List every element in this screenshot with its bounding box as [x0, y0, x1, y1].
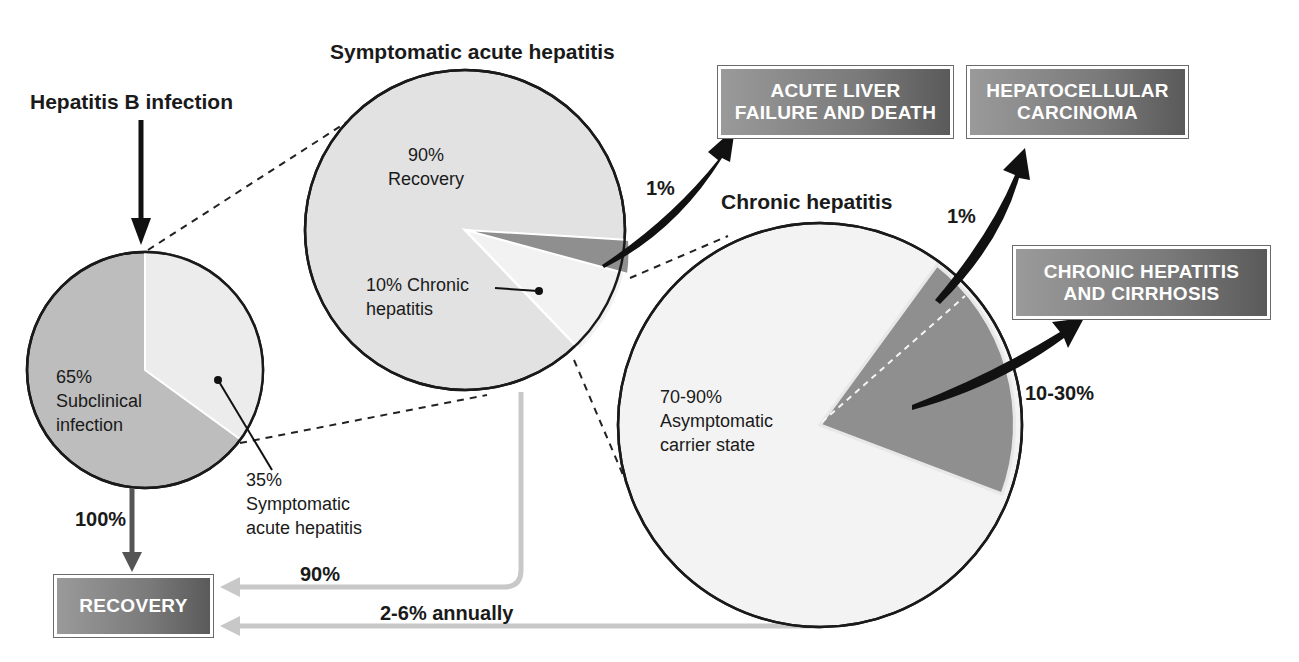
pie-symptomatic [305, 70, 629, 390]
slice-chronic: 10% Chronic hepatitis [366, 273, 469, 321]
flow-cirrhosis-pct: 10-30% [1025, 382, 1094, 405]
slice-carrier: 70-90% Asymptomatic carrier state [660, 385, 773, 457]
slice-symptomatic-label2: acute hepatitis [246, 516, 362, 540]
outcome-hcc-line2: CARCINOMA [986, 102, 1169, 124]
outcome-recovery-box: RECOVERY [53, 574, 214, 638]
outcome-cirrhosis-label: CHRONIC HEPATITIS AND CIRRHOSIS [1016, 249, 1267, 316]
flow-100-pct: 100% [75, 508, 126, 531]
slice-symptomatic-label: Symptomatic [246, 492, 362, 516]
slice-subclinical-label2: infection [56, 413, 142, 437]
slice-recovery: 90% Recovery [388, 143, 464, 191]
flow-90-pct: 90% [300, 563, 340, 586]
arrow-head-90 [220, 577, 240, 597]
outcome-liver-failure-line2: FAILURE AND DEATH [735, 102, 936, 124]
outcome-liver-failure-box: ACUTE LIVER FAILURE AND DEATH [717, 65, 954, 139]
slice-symptomatic-pct: 35% [246, 468, 362, 492]
slice-carrier-pct: 70-90% [660, 385, 773, 409]
outcome-hcc-label: HEPATOCELLULAR CARCINOMA [970, 69, 1185, 135]
arrow-head-annual [220, 616, 240, 636]
title-chronic-hepatitis: Chronic hepatitis [721, 190, 893, 214]
arrow-infection [131, 120, 151, 245]
outcome-cirrhosis-box: CHRONIC HEPATITIS AND CIRRHOSIS [1012, 245, 1271, 320]
title-hepatitis-b-infection: Hepatitis B infection [30, 90, 233, 114]
outcome-recovery-label: RECOVERY [57, 578, 210, 634]
flow-annual-pct: 2-6% annually [380, 602, 513, 625]
outcome-liver-failure-line1: ACUTE LIVER [735, 80, 936, 102]
slice-carrier-label2: carrier state [660, 433, 773, 457]
outcome-cirrhosis-line2: AND CIRRHOSIS [1044, 283, 1239, 305]
slice-symptomatic: 35% Symptomatic acute hepatitis [246, 468, 362, 540]
slice-subclinical-label: Subclinical [56, 389, 142, 413]
slice-recovery-label: Recovery [388, 167, 464, 191]
outcome-cirrhosis-line1: CHRONIC HEPATITIS [1044, 261, 1239, 283]
title-symptomatic-acute-hepatitis: Symptomatic acute hepatitis [330, 40, 615, 64]
outcome-hcc-box: HEPATOCELLULAR CARCINOMA [966, 65, 1189, 139]
slice-carrier-label: Asymptomatic [660, 409, 773, 433]
outcome-hcc-line1: HEPATOCELLULAR [986, 80, 1169, 102]
flow-liver-failure-pct: 1% [646, 177, 675, 200]
slice-recovery-pct: 90% [388, 143, 464, 167]
outcome-liver-failure-label: ACUTE LIVER FAILURE AND DEATH [721, 69, 950, 135]
slice-chronic-pct: 10% Chronic [366, 273, 469, 297]
slice-subclinical: 65% Subclinical infection [56, 365, 142, 437]
slice-subclinical-pct: 65% [56, 365, 142, 389]
slice-chronic-label: hepatitis [366, 297, 469, 321]
flow-hcc-pct: 1% [947, 205, 976, 228]
